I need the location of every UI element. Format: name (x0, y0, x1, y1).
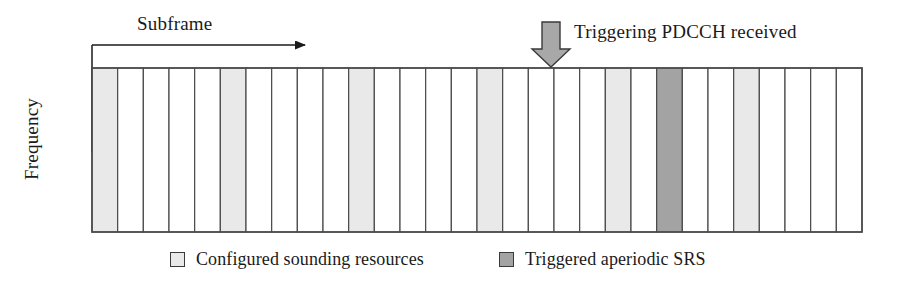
legend-item-configured-sounding-resources: Configured sounding resources (170, 250, 424, 268)
subframe-column-empty (528, 68, 554, 232)
subframe-grid (92, 68, 862, 232)
subframe-column-empty (426, 68, 452, 232)
legend: Configured sounding resources Triggered … (0, 248, 905, 288)
subframe-column-configured-sounding (92, 68, 118, 232)
subframe-column-empty (811, 68, 837, 232)
block-arrow-down-icon (532, 22, 570, 67)
subframe-column-empty (143, 68, 169, 232)
subframe-column-empty (631, 68, 657, 232)
subframe-axis-label: Subframe (137, 13, 212, 35)
legend-swatch-configured-icon (170, 252, 185, 267)
subframe-column-empty (374, 68, 400, 232)
subframe-column-empty (785, 68, 811, 232)
subframe-column-empty (451, 68, 477, 232)
subframe-column-configured-sounding (349, 68, 375, 232)
legend-label-configured: Configured sounding resources (196, 250, 424, 268)
subframe-column-empty (272, 68, 298, 232)
subframe-column-configured-sounding (734, 68, 760, 232)
subframe-column-configured-sounding (220, 68, 246, 232)
subframe-column-empty (246, 68, 272, 232)
legend-label-triggered: Triggered aperiodic SRS (525, 250, 706, 268)
subframe-column-empty (682, 68, 708, 232)
subframe-column-configured-sounding (605, 68, 631, 232)
subframe-column-empty (503, 68, 529, 232)
subframe-column-empty (323, 68, 349, 232)
subframe-column-empty (759, 68, 785, 232)
subframe-column-configured-sounding (477, 68, 503, 232)
subframe-column-empty (580, 68, 606, 232)
subframe-column-empty (195, 68, 221, 232)
subframe-column-empty (708, 68, 734, 232)
legend-swatch-triggered-icon (499, 252, 514, 267)
subframe-column-triggered-srs (657, 68, 683, 232)
subframe-column-empty (169, 68, 195, 232)
subframe-column-empty (297, 68, 323, 232)
srs-triggering-figure: Subframe Frequency Triggering PDCCH rece… (0, 0, 905, 303)
legend-item-triggered-aperiodic-srs: Triggered aperiodic SRS (499, 250, 706, 268)
subframe-column-empty (400, 68, 426, 232)
subframe-column-empty (836, 68, 862, 232)
subframe-column-empty (118, 68, 144, 232)
frequency-axis-label: Frequency (21, 98, 43, 180)
subframe-column-empty (554, 68, 580, 232)
pdcch-annotation-label: Triggering PDCCH received (574, 21, 797, 43)
